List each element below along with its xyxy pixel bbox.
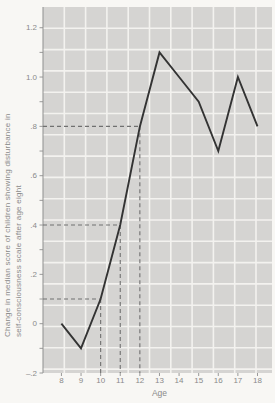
line-chart: 1.21.0.8.6.4.20–.289101112131415161718Ag… [0,0,275,403]
x-tick-label: 16 [214,376,223,385]
x-tick-label: 18 [253,376,262,385]
y-tick-label: 1.0 [26,73,38,82]
x-tick-label: 13 [155,376,164,385]
x-tick-label: 14 [175,376,184,385]
y-tick-label: 0 [33,319,38,328]
x-tick-label: 17 [233,376,242,385]
y-tick-label: .8 [30,122,37,131]
y-axis-title-line-2: self-consciousness scale after age eight [14,185,23,337]
x-tick-label: 8 [59,376,64,385]
scanned-line-chart-figure: 1.21.0.8.6.4.20–.289101112131415161718Ag… [0,0,275,403]
x-tick-label: 10 [96,376,105,385]
y-tick-label: .4 [30,221,37,230]
y-tick-label: –.2 [26,369,38,378]
y-tick-label: 1.2 [26,23,38,32]
x-tick-label: 11 [116,376,125,385]
y-axis-title-line-1: Change in median score of children showi… [3,113,12,337]
x-axis-title: Age [152,388,167,398]
x-tick-label: 9 [79,376,84,385]
y-tick-label: .2 [30,270,37,279]
y-tick-label: .6 [30,171,37,180]
x-tick-label: 15 [194,376,203,385]
x-tick-label: 12 [135,376,144,385]
